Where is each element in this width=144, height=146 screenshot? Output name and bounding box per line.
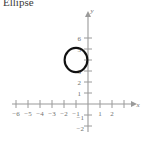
x-ticklabel--4: −4 bbox=[36, 110, 44, 118]
y-ticklabel-2: 2 bbox=[78, 79, 82, 87]
y-ticklabel-1: 1 bbox=[78, 90, 82, 98]
x-ticklabel-1: 1 bbox=[98, 110, 102, 118]
y-ticklabel-6: 6 bbox=[78, 35, 82, 43]
y-ticklabel--1: −1 bbox=[77, 114, 85, 122]
x-ticklabel--6: −6 bbox=[12, 110, 20, 118]
x-ticklabel--3: −3 bbox=[48, 110, 56, 118]
x-ticklabel--5: −5 bbox=[24, 110, 32, 118]
x-ticklabel--2: −2 bbox=[60, 110, 68, 118]
ellipse-curve bbox=[65, 48, 88, 72]
y-axis-label: y bbox=[89, 7, 94, 15]
x-axis-label: x bbox=[135, 101, 140, 109]
ellipse-figure: Ellipse −6 −5 −4 −3 −2 −1 bbox=[0, 0, 144, 146]
x-ticklabel-2: 2 bbox=[110, 110, 114, 118]
y-ticklabel--2: −2 bbox=[77, 125, 85, 133]
coordinate-plane: −6 −5 −4 −3 −2 −1 1 2 1 2 3 5 6 −1 −2 x … bbox=[0, 0, 144, 146]
